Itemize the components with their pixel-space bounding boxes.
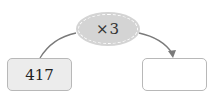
input-value: 417 — [25, 66, 54, 84]
operation-label: ×3 — [96, 20, 120, 38]
input-box: 417 — [7, 58, 72, 91]
operation-oval: ×3 — [76, 12, 140, 46]
arc-right — [139, 33, 172, 53]
arc-left — [40, 33, 76, 58]
answer-box[interactable] — [142, 58, 207, 91]
arrowhead-icon — [168, 50, 176, 58]
